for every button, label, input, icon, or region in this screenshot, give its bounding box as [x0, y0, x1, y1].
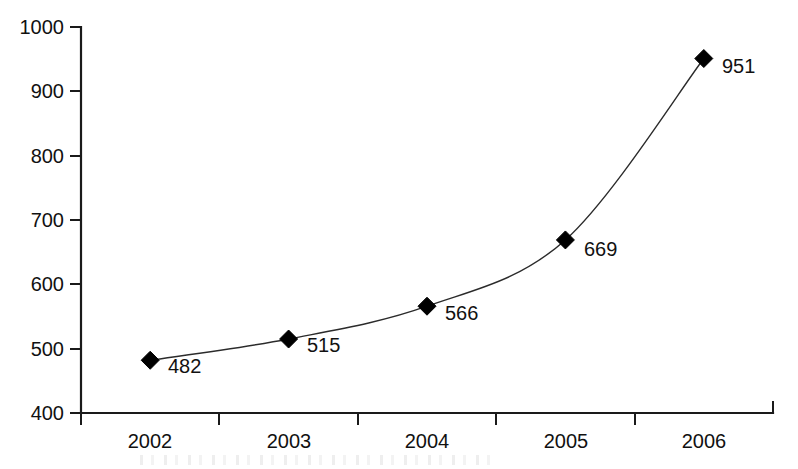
data-point-label: 482: [168, 355, 201, 377]
data-point-label: 515: [307, 334, 340, 356]
data-point-label: 669: [584, 238, 617, 260]
scan-artifact: [140, 455, 490, 465]
y-tick-label: 1000: [20, 16, 65, 38]
data-point-label: 951: [722, 55, 755, 77]
y-tick-label: 600: [31, 273, 64, 295]
y-tick-label: 800: [31, 145, 64, 167]
x-tick-label: 2006: [682, 430, 727, 452]
x-tick-label: 2002: [128, 430, 173, 452]
line-chart: 1000 900 800 700 600 500 400 2002: [0, 0, 798, 469]
x-tick-label: 2005: [544, 430, 589, 452]
chart-container: 1000 900 800 700 600 500 400 2002: [0, 0, 798, 469]
y-tick-label: 700: [31, 209, 64, 231]
x-tick-label: 2003: [267, 430, 312, 452]
data-point-label: 566: [445, 302, 478, 324]
y-tick-label: 900: [31, 80, 64, 102]
chart-background: [0, 0, 798, 469]
y-tick-label: 400: [31, 402, 64, 424]
x-tick-label: 2004: [405, 430, 450, 452]
y-tick-label: 500: [31, 338, 64, 360]
